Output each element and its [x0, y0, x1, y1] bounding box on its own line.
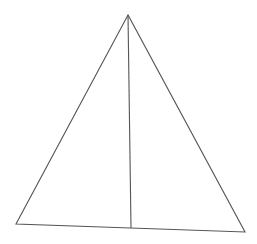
triangle-diagram — [0, 0, 257, 244]
altitude-line — [128, 15, 131, 228]
